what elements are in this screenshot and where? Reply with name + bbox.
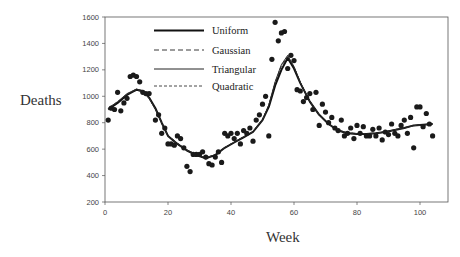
x-tick-label: 60: [290, 208, 298, 217]
data-point: [172, 143, 177, 148]
legend-label: Uniform: [212, 25, 248, 36]
data-point: [405, 131, 410, 136]
data-point: [162, 125, 167, 130]
legend-label: Triangular: [212, 64, 256, 75]
data-point: [323, 110, 328, 115]
data-point: [153, 118, 158, 123]
data-point: [421, 124, 426, 129]
data-point: [417, 104, 422, 109]
data-point: [106, 118, 111, 123]
data-point: [424, 111, 429, 116]
data-point: [147, 91, 152, 96]
data-point: [399, 123, 404, 128]
line-uniform: [108, 58, 432, 158]
data-point: [121, 100, 126, 105]
data-point: [288, 53, 293, 58]
data-point: [380, 137, 385, 142]
data-point: [361, 124, 366, 129]
y-tick-label: 1000: [82, 92, 99, 101]
data-point: [285, 66, 290, 71]
data-point: [219, 160, 224, 165]
data-point: [210, 162, 215, 167]
data-point: [260, 102, 265, 107]
y-tick-label: 1200: [82, 65, 99, 74]
axis-ticks: 2004006008001000120014001600020406080100: [82, 13, 426, 218]
data-point: [402, 118, 407, 123]
legend-item-uniform: Uniform: [154, 25, 248, 36]
chart: 2004006008001000120014001600020406080100…: [0, 0, 460, 257]
y-tick-label: 800: [86, 118, 99, 127]
data-point: [389, 121, 394, 126]
data-point: [178, 136, 183, 141]
data-point: [307, 91, 312, 96]
data-point: [232, 136, 237, 141]
data-point: [395, 133, 400, 138]
x-tick-label: 100: [414, 208, 427, 217]
data-point: [228, 131, 233, 136]
data-point: [181, 145, 186, 150]
y-tick-label: 400: [86, 171, 99, 180]
data-point: [329, 115, 334, 120]
data-point: [317, 123, 322, 128]
data-point: [118, 108, 123, 113]
data-point: [339, 118, 344, 123]
data-point: [115, 90, 120, 95]
data-point: [159, 131, 164, 136]
data-point: [367, 133, 372, 138]
data-point: [336, 128, 341, 133]
data-point: [298, 88, 303, 93]
data-point: [112, 107, 117, 112]
fit-lines: [108, 55, 432, 158]
data-point: [184, 164, 189, 169]
data-point: [348, 125, 353, 130]
data-point: [250, 139, 255, 144]
data-point: [200, 149, 205, 154]
legend: Uniform Gaussian Triangular Quadratic: [154, 25, 256, 92]
data-point: [430, 133, 435, 138]
data-point: [203, 155, 208, 160]
legend-item-quadratic: Quadratic: [154, 81, 254, 92]
data-point: [124, 96, 129, 101]
data-point: [266, 133, 271, 138]
data-point: [134, 74, 139, 79]
data-point: [345, 131, 350, 136]
data-point: [373, 133, 378, 138]
y-tick-label: 200: [86, 198, 99, 207]
data-point: [276, 38, 281, 43]
y-tick-label: 600: [86, 145, 99, 154]
x-tick-label: 80: [353, 208, 361, 217]
legend-item-gaussian: Gaussian: [154, 45, 251, 56]
data-point: [216, 149, 221, 154]
data-point: [282, 29, 287, 34]
data-point: [427, 121, 432, 126]
legend-label: Quadratic: [212, 81, 254, 92]
data-point: [269, 57, 274, 62]
data-point: [351, 136, 356, 141]
data-point: [188, 169, 193, 174]
x-tick-label: 20: [164, 208, 172, 217]
data-point: [244, 131, 249, 136]
data-point: [310, 107, 315, 112]
data-point: [213, 155, 218, 160]
data-point: [235, 131, 240, 136]
data-point: [408, 115, 413, 120]
data-point: [358, 131, 363, 136]
line-gaussian: [108, 57, 432, 158]
data-point: [254, 118, 259, 123]
data-point: [291, 58, 296, 63]
data-point: [247, 125, 252, 130]
legend-label: Gaussian: [212, 45, 251, 56]
legend-item-triangular: Triangular: [154, 64, 256, 75]
data-point: [354, 123, 359, 128]
data-point: [320, 102, 325, 107]
data-point: [313, 90, 318, 95]
data-point: [137, 79, 142, 84]
data-point: [326, 120, 331, 125]
data-point: [273, 20, 278, 25]
line-quadratic: [108, 56, 432, 158]
data-point: [263, 94, 268, 99]
data-point: [411, 145, 416, 150]
x-tick-label: 0: [103, 208, 107, 217]
data-point: [257, 112, 262, 117]
data-point: [238, 141, 243, 146]
